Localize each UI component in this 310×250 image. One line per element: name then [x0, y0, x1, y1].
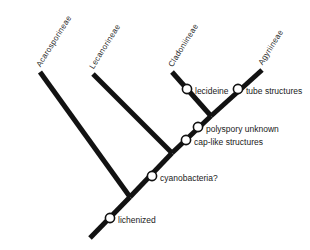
character-label: lichenized [118, 215, 156, 225]
character-label-layer: lecideinetube structurespolyspory unknow… [118, 86, 302, 225]
taxon-label: Agyriineae [256, 28, 285, 67]
character-label: lecideine [195, 86, 229, 96]
cladogram-figure: AcarosporineaeLecanorineaeCladoniineaeAg… [0, 0, 310, 250]
character-node-marker [193, 122, 202, 131]
character-node-marker [105, 213, 114, 222]
branch-layer [40, 70, 262, 238]
character-label: cap-like structures [194, 137, 263, 147]
character-label: tube structures [246, 86, 302, 96]
character-label: cyanobacteria? [160, 173, 218, 183]
character-node-marker [182, 84, 191, 93]
taxon-label: Acarosporineae [34, 14, 73, 69]
character-label: polyspory unknown [206, 124, 279, 134]
taxon-label: Lecanorineae [87, 22, 122, 70]
taxon-label-layer: AcarosporineaeLecanorineaeCladoniineaeAg… [34, 14, 285, 71]
taxon-label: Cladoniineae [166, 22, 200, 69]
character-node-marker [233, 84, 242, 93]
phylogenetic-tree: AcarosporineaeLecanorineaeCladoniineaeAg… [0, 0, 310, 250]
tree-branch-acarosporineae-branch [40, 72, 130, 197]
character-node-marker [181, 135, 190, 144]
character-node-marker [147, 171, 156, 180]
tree-branch-backbone-upper [172, 116, 211, 153]
tree-branch-lecanorineae-branch [93, 74, 172, 153]
